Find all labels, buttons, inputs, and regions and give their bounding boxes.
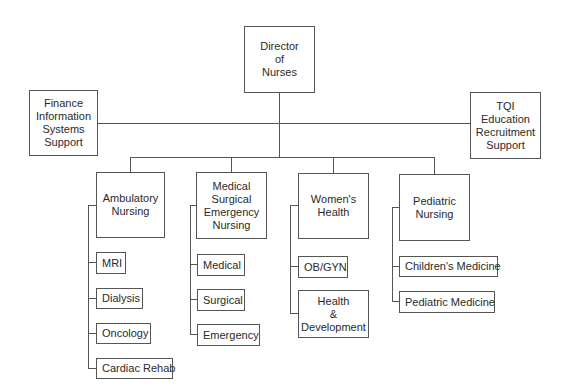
unit-oncology-box: Oncology (96, 323, 151, 344)
unit-mri-box: MRI (96, 252, 126, 274)
womens-health-box: Women's Health (298, 173, 369, 239)
unit-pediatric-medicine-box: Pediatric Medicine (399, 291, 495, 313)
connector-womens-spine-top (290, 205, 298, 206)
connector-medsurg-surgical (190, 299, 197, 300)
connector-ambulatory-cardiac (88, 368, 96, 369)
connector-drop-womens (333, 157, 334, 173)
connector-director-down (279, 92, 280, 158)
director-of-nurses-box: Director of Nurses (244, 26, 315, 93)
unit-childrens-medicine-box: Children's Medicine (399, 256, 498, 277)
connector-staff-line (97, 123, 470, 124)
connector-womens-spine (290, 205, 291, 314)
connector-ambulatory-spine (88, 205, 89, 369)
connector-pediatric-childrens (392, 266, 399, 267)
unit-cardiac-rehab-box: Cardiac Rehab (96, 358, 173, 379)
unit-obgyn-box: OB/GYN (298, 256, 348, 278)
connector-womens-obgyn (290, 266, 298, 267)
connector-ambulatory-spine-top (88, 205, 96, 206)
connector-pediatric-spine-top (392, 207, 399, 208)
connector-pediatric-spine (392, 207, 393, 302)
ambulatory-nursing-box: Ambulatory Nursing (96, 172, 165, 238)
connector-ambulatory-dialysis (88, 298, 96, 299)
connector-drop-pediatric (434, 157, 435, 174)
unit-medical-box: Medical (197, 254, 245, 276)
connector-pediatric-pediatric-med (392, 301, 399, 302)
connector-department-line (130, 157, 435, 158)
connector-ambulatory-mri (88, 262, 96, 263)
connector-ambulatory-oncology (88, 333, 96, 334)
unit-surgical-box: Surgical (197, 289, 245, 311)
unit-dialysis-box: Dialysis (96, 288, 143, 309)
connector-medsurg-spine (190, 205, 191, 335)
medsurg-nursing-box: Medical Surgical Emergency Nursing (196, 172, 267, 239)
tqi-staff-box: TQI Education Recruitment Support (470, 92, 541, 159)
connector-drop-medsurg (231, 157, 232, 172)
unit-health-development-box: Health & Development (298, 290, 369, 338)
connector-medsurg-medical (190, 264, 197, 265)
unit-emergency-box: Emergency (197, 324, 260, 346)
connector-womens-health-dev (290, 313, 298, 314)
pediatric-nursing-box: Pediatric Nursing (399, 174, 470, 241)
connector-medsurg-emergency (190, 334, 197, 335)
connector-drop-ambulatory (130, 157, 131, 172)
finance-staff-box: Finance Information Systems Support (29, 90, 98, 156)
